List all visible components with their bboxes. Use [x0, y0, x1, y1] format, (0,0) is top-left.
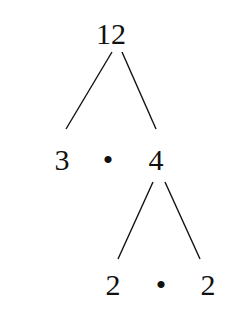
multiply-dot-1: •	[103, 143, 114, 176]
factor-4: 4	[149, 143, 164, 176]
factor-2-right: 2	[201, 268, 216, 301]
branch-12-to-3	[66, 52, 112, 129]
branch-4-to-2-left	[118, 182, 153, 259]
factor-tree: 12 3 • 4 2 • 2	[0, 0, 232, 321]
root-node: 12	[96, 17, 126, 50]
factor-3: 3	[55, 143, 70, 176]
branch-12-to-4	[122, 52, 156, 129]
factor-2-left: 2	[106, 268, 121, 301]
branch-4-to-2-right	[165, 182, 200, 259]
multiply-dot-2: •	[156, 268, 167, 301]
